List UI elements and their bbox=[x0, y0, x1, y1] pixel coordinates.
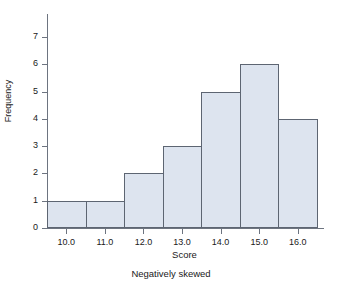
histogram-bar bbox=[124, 173, 164, 228]
x-tick-mark bbox=[182, 229, 183, 234]
histogram-bar bbox=[86, 201, 126, 228]
y-tick-label: 1 bbox=[4, 196, 38, 205]
y-tick-label: 7 bbox=[4, 32, 38, 41]
y-tick-label-text: 1 bbox=[8, 196, 38, 205]
y-tick-label-text: 3 bbox=[8, 141, 38, 150]
bars-layer bbox=[47, 12, 322, 228]
histogram-bar bbox=[240, 64, 280, 228]
histogram-bar bbox=[163, 146, 203, 228]
x-tick-label: 16.0 bbox=[275, 237, 321, 247]
x-tick-mark bbox=[298, 229, 299, 234]
y-axis-title: Frequency bbox=[3, 66, 13, 136]
y-tick-label-text: 0 bbox=[8, 223, 38, 232]
histogram-bar bbox=[278, 119, 318, 228]
x-tick-mark bbox=[259, 229, 260, 234]
y-tick-label: 3 bbox=[4, 141, 38, 150]
y-tick-label: 0 bbox=[4, 223, 38, 232]
x-tick-mark bbox=[221, 229, 222, 234]
x-axis-line bbox=[47, 228, 324, 229]
x-tick-mark bbox=[105, 229, 106, 234]
y-tick-label: 2 bbox=[4, 168, 38, 177]
figure-caption: Negatively skewed bbox=[0, 268, 342, 279]
x-tick-mark bbox=[66, 229, 67, 234]
histogram-figure: 01234567 10.011.012.013.014.015.016.0 Fr… bbox=[0, 0, 342, 290]
histogram-bar bbox=[201, 92, 241, 229]
x-axis-title: Score bbox=[47, 249, 322, 260]
y-tick-mark bbox=[42, 228, 47, 229]
y-tick-label-text: 2 bbox=[8, 168, 38, 177]
histogram-bar bbox=[47, 201, 87, 228]
y-tick-label-text: 7 bbox=[8, 32, 38, 41]
x-tick-mark bbox=[143, 229, 144, 234]
